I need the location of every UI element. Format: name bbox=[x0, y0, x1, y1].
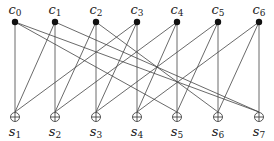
xor-node-s5 bbox=[173, 113, 182, 122]
edge-c3-s1 bbox=[15, 22, 137, 112]
bottom-nodes bbox=[11, 113, 264, 122]
edges bbox=[15, 22, 259, 112]
label-c2: c2 bbox=[89, 3, 102, 18]
node-c1 bbox=[52, 19, 58, 25]
node-c4 bbox=[174, 19, 180, 25]
edge-c1-s1 bbox=[15, 22, 55, 112]
label-s5: s5 bbox=[171, 125, 183, 140]
label-c0: c0 bbox=[8, 3, 21, 18]
xor-node-s1 bbox=[11, 113, 20, 122]
top-nodes bbox=[12, 19, 262, 25]
label-s3: s3 bbox=[90, 125, 102, 140]
label-c1: c1 bbox=[48, 3, 61, 18]
xor-node-s7 bbox=[255, 113, 264, 122]
node-c5 bbox=[215, 19, 221, 25]
edge-c4-s2 bbox=[55, 22, 177, 112]
label-c6: c6 bbox=[252, 3, 265, 18]
label-s6: s6 bbox=[212, 125, 224, 140]
node-c2 bbox=[93, 19, 99, 25]
label-c3: c3 bbox=[130, 3, 143, 18]
xor-node-s3 bbox=[92, 113, 101, 122]
xor-node-s6 bbox=[214, 113, 223, 122]
xor-node-s4 bbox=[133, 113, 142, 122]
label-s2: s2 bbox=[49, 125, 61, 140]
edge-c6-s4 bbox=[137, 22, 259, 112]
label-s7: s7 bbox=[253, 125, 265, 140]
node-c6 bbox=[256, 19, 262, 25]
node-c3 bbox=[134, 19, 140, 25]
bipartite-graph bbox=[0, 0, 274, 141]
label-s4: s4 bbox=[131, 125, 143, 140]
edge-c6-s6 bbox=[218, 22, 259, 112]
label-s1: s1 bbox=[9, 125, 21, 140]
label-c4: c4 bbox=[170, 3, 183, 18]
node-c0 bbox=[12, 19, 18, 25]
xor-node-s2 bbox=[51, 113, 60, 122]
label-c5: c5 bbox=[211, 3, 224, 18]
